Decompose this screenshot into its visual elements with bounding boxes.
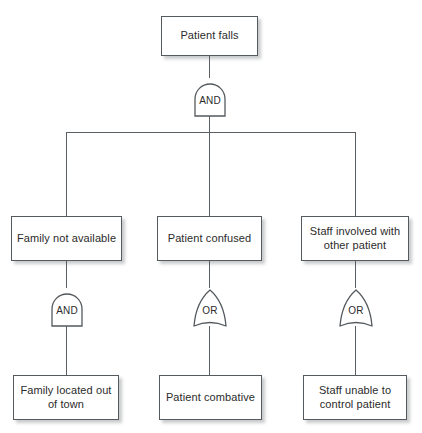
wire-gate-to-staff-unable [355, 326, 356, 375]
node-basic-family-located-out-of-town[interactable]: Family located out of town [13, 375, 119, 420]
node-intermediate-patient-confused-label: Patient confused [168, 232, 252, 246]
node-intermediate-patient-confused[interactable]: Patient confused [157, 216, 262, 261]
node-intermediate-family-not-available[interactable]: Family not available [11, 216, 122, 261]
node-basic-patient-combative-label: Patient combative [166, 391, 255, 405]
gate-top-and[interactable]: AND [188, 78, 232, 118]
node-top-event-label: Patient falls [180, 29, 238, 43]
node-basic-family-located-out-of-town-label: Family located out of town [17, 384, 115, 411]
node-intermediate-staff-involved-label: Staff involved with other patient [305, 225, 405, 252]
wire-gate-to-family-located [66, 326, 67, 375]
node-intermediate-staff-involved[interactable]: Staff involved with other patient [301, 216, 409, 261]
wire-bus-level1 [66, 132, 356, 133]
wire-bus-drop-middle [209, 132, 210, 216]
wire-confused-to-gate [209, 261, 210, 288]
wire-bus-drop-right [355, 132, 356, 216]
node-basic-staff-unable-to-control-patient[interactable]: Staff unable to control patient [303, 375, 407, 420]
gate-family-and[interactable]: AND [45, 288, 89, 328]
fault-tree-diagram: Patient falls AND Family not available P… [0, 0, 422, 433]
wire-family-to-gate [66, 261, 67, 288]
node-top-event[interactable]: Patient falls [161, 16, 258, 56]
gate-staff-or[interactable]: OR [334, 288, 378, 328]
wire-top-gate-to-bus [209, 116, 210, 133]
wire-staff-to-gate [355, 261, 356, 288]
wire-bus-drop-left [66, 132, 67, 216]
gate-confused-or[interactable]: OR [188, 288, 232, 328]
wire-gate-to-patient-combative [209, 326, 210, 375]
wire-top-event-to-gate [209, 56, 210, 78]
node-basic-patient-combative[interactable]: Patient combative [159, 375, 262, 420]
node-intermediate-family-not-available-label: Family not available [17, 232, 116, 246]
node-basic-staff-unable-to-control-patient-label: Staff unable to control patient [307, 384, 403, 411]
